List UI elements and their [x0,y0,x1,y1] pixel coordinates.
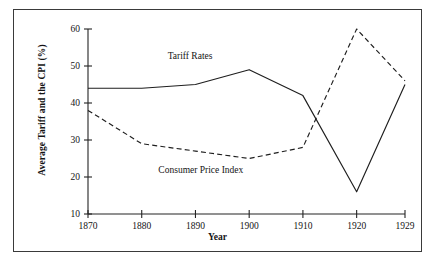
y-tick-group: 102030405060 [71,24,93,219]
series-line-consumer-price-index [88,29,405,159]
series-annotation-label: Tariff Rates [168,51,213,61]
x-tick-label: 1870 [79,221,98,231]
x-tick-label: 1880 [132,221,151,231]
x-tick-label: 1929 [396,221,415,231]
y-tick-label: 60 [71,24,81,34]
x-tick-group: 1870188018901900191019201929 [79,210,415,231]
series-annotation-label: Consumer Price Index [158,165,243,175]
figure-frame: Average Tariff and the CPI (%) Year 1020… [13,9,422,252]
series-line-tariff-rates [88,70,405,192]
line-chart-plot: 102030405060 187018801890190019101920192… [14,10,423,253]
y-tick-label: 50 [71,61,81,71]
y-tick-label: 30 [71,135,81,145]
x-tick-label: 1900 [240,221,259,231]
y-tick-label: 10 [71,209,81,219]
y-tick-label: 40 [71,98,81,108]
series-annotation-group: Tariff RatesConsumer Price Index [158,51,243,176]
x-tick-label: 1920 [347,221,366,231]
x-tick-label: 1910 [293,221,312,231]
x-tick-label: 1890 [186,221,205,231]
y-tick-label: 20 [71,172,81,182]
